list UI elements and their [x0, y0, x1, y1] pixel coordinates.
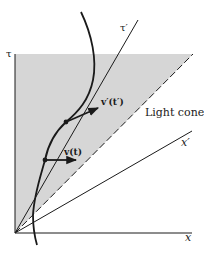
light-cone-label: Light cone [145, 106, 204, 119]
tau-axis-label: τ [6, 48, 12, 59]
x-prime-axis-label: x′ [181, 136, 190, 149]
x-axis-label: x [185, 231, 192, 244]
velocity-prime-label: v′(t′) [100, 97, 124, 107]
spacetime-diagram: τ τ′ x x′ Light cone v(t) v′(t′) [0, 0, 204, 254]
velocity-label: v(t) [63, 147, 82, 157]
tau-prime-axis-label: τ′ [120, 22, 129, 33]
